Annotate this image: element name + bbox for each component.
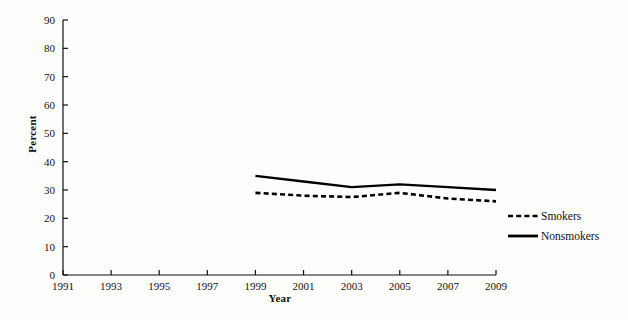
- x-axis-ticks: 1991199319951997199920012003200520072009: [52, 270, 508, 292]
- y-tick-label: 50: [44, 127, 56, 139]
- legend-item-smokers: Smokers: [541, 210, 581, 222]
- series-line-nonsmokers: [255, 176, 496, 190]
- x-tick-label: 2005: [389, 280, 412, 292]
- y-tick-label: 70: [44, 71, 56, 83]
- x-tick-label: 1997: [196, 280, 219, 292]
- x-tick-label: 1999: [244, 280, 267, 292]
- y-tick-label: 20: [44, 212, 56, 224]
- chart-canvas: 0102030405060708090 19911993199519971999…: [0, 0, 628, 320]
- y-axis-title: Percent: [26, 94, 38, 174]
- x-tick-label: 2001: [293, 280, 315, 292]
- y-tick-label: 30: [44, 184, 56, 196]
- x-tick-label: 2007: [437, 280, 460, 292]
- x-tick-label: 1993: [100, 280, 123, 292]
- x-axis-title: Year: [0, 292, 560, 304]
- y-tick-label: 40: [44, 156, 56, 168]
- x-tick-label: 2009: [485, 280, 508, 292]
- x-tick-label: 2003: [341, 280, 364, 292]
- y-tick-label: 90: [44, 14, 56, 26]
- y-axis-ticks: 0102030405060708090: [44, 14, 68, 281]
- y-tick-label: 10: [44, 241, 56, 253]
- legend-item-nonsmokers: Nonsmokers: [541, 230, 599, 242]
- legend-swatches: [508, 216, 538, 236]
- series-line-smokers: [255, 193, 496, 202]
- axis-group: [63, 20, 496, 275]
- y-tick-label: 60: [44, 99, 56, 111]
- data-series-group: [255, 176, 496, 202]
- line-chart: 0102030405060708090 19911993199519971999…: [0, 0, 628, 320]
- x-tick-label: 1991: [52, 280, 74, 292]
- y-tick-label: 80: [44, 42, 56, 54]
- x-tick-label: 1995: [148, 280, 171, 292]
